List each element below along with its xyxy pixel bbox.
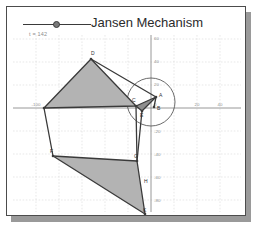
svg-text:-20: -20 (154, 129, 161, 134)
svg-text:A: A (159, 92, 163, 98)
svg-text:D: D (91, 50, 95, 56)
plot-window: -100 -80 -60 -40 -20 0 20 40 60 40 20 -2… (6, 6, 246, 216)
svg-text:20: 20 (195, 102, 200, 107)
svg-text:G: G (134, 153, 138, 159)
svg-text:E: E (140, 112, 144, 118)
svg-text:H: H (144, 178, 148, 184)
svg-text:-80: -80 (154, 198, 161, 203)
triangle-upper (44, 59, 136, 108)
y-tick-labels: 60 40 20 -20 -40 -60 -80 (154, 36, 161, 203)
svg-text:-100: -100 (32, 102, 41, 107)
svg-text:-40: -40 (154, 152, 161, 157)
svg-text:40: 40 (154, 59, 159, 64)
figure-canvas: -100 -80 -60 -40 -20 0 20 40 60 40 20 -2… (7, 7, 245, 215)
svg-text:40: 40 (218, 102, 223, 107)
svg-text:60: 60 (154, 36, 159, 41)
svg-text:K: K (143, 207, 147, 213)
slider-value-label: t = 142 (29, 31, 47, 37)
svg-text:C: C (132, 97, 136, 103)
triangle-crank (136, 97, 156, 111)
screenshot-root: -100 -80 -60 -40 -20 0 20 40 60 40 20 -2… (0, 0, 254, 230)
svg-text:20: 20 (154, 82, 159, 87)
svg-text:-60: -60 (154, 175, 161, 180)
triangle-lower (53, 156, 145, 214)
svg-text:F: F (50, 148, 53, 154)
plot-title: Jansen Mechanism (7, 15, 245, 30)
